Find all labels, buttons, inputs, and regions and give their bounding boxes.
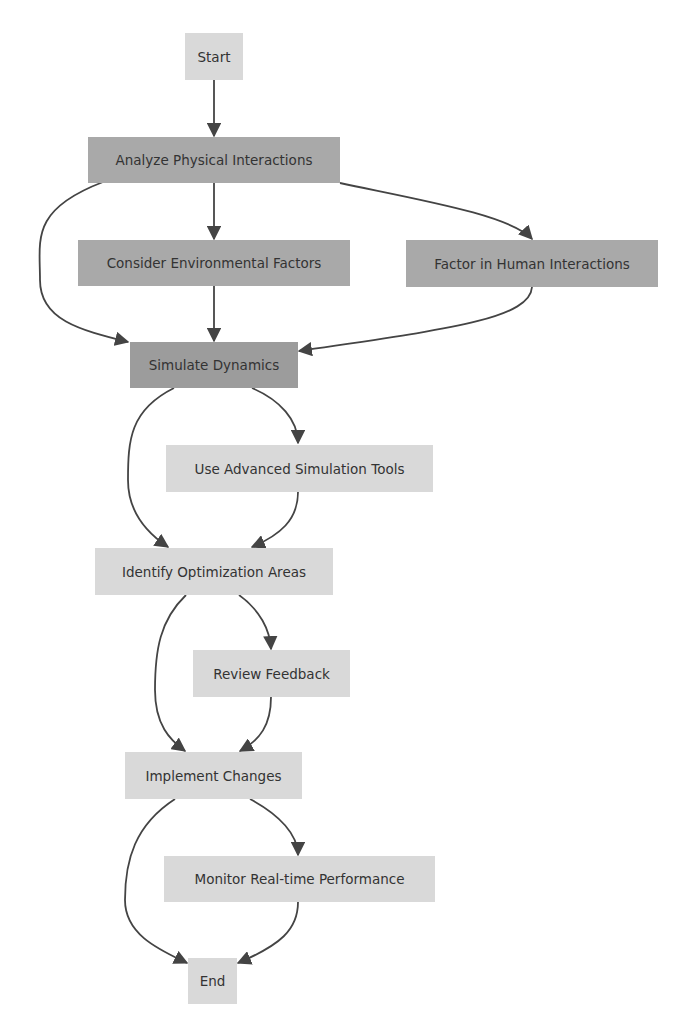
edge-simulate-tools xyxy=(252,388,298,443)
node-identify-optimization-areas: Identify Optimization Areas xyxy=(95,548,333,595)
edge-identify-review xyxy=(239,595,271,649)
node-factor-human-interactions: Factor in Human Interactions xyxy=(406,240,658,287)
edge-tools-identify xyxy=(252,492,298,547)
node-label: Review Feedback xyxy=(213,666,330,682)
edge-implement-monitor xyxy=(250,799,298,855)
edge-monitor-end xyxy=(238,902,298,963)
node-simulate-dynamics: Simulate Dynamics xyxy=(130,342,298,388)
node-end: End xyxy=(188,958,237,1004)
node-label: Consider Environmental Factors xyxy=(107,255,322,271)
edge-review-implement xyxy=(240,697,271,751)
edge-factor-simulate xyxy=(299,287,532,351)
node-review-feedback: Review Feedback xyxy=(193,650,350,697)
node-label: Factor in Human Interactions xyxy=(434,256,629,272)
node-start: Start xyxy=(185,33,243,80)
node-implement-changes: Implement Changes xyxy=(125,752,302,799)
node-label: Monitor Real-time Performance xyxy=(195,871,405,887)
node-consider-environmental-factors: Consider Environmental Factors xyxy=(78,240,350,286)
node-label: Use Advanced Simulation Tools xyxy=(195,461,405,477)
edge-identify-implement xyxy=(155,595,186,751)
node-analyze-physical-interactions: Analyze Physical Interactions xyxy=(88,137,340,183)
node-label: Simulate Dynamics xyxy=(149,357,280,373)
node-label: Implement Changes xyxy=(145,768,281,784)
node-label: Identify Optimization Areas xyxy=(122,564,306,580)
node-label: End xyxy=(200,973,226,989)
node-monitor-real-time-performance: Monitor Real-time Performance xyxy=(164,856,435,902)
node-label: Analyze Physical Interactions xyxy=(116,152,313,168)
node-label: Start xyxy=(198,49,231,65)
node-use-advanced-simulation-tools: Use Advanced Simulation Tools xyxy=(166,445,433,492)
edge-analyze-factor xyxy=(340,183,532,239)
